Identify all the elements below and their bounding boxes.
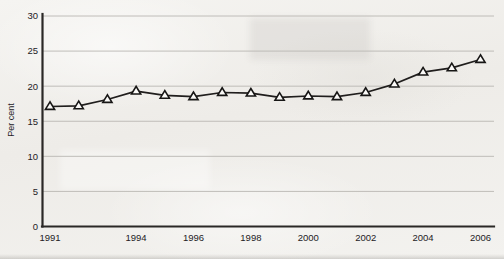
data-point-marker	[45, 102, 54, 110]
x-axis-tick-label: 1991	[39, 232, 60, 243]
data-point-marker	[361, 88, 370, 96]
series-line-percent	[50, 60, 481, 107]
data-point-marker	[246, 88, 255, 96]
data-point-marker	[275, 93, 284, 101]
x-axis-tick-label: 1998	[240, 232, 261, 243]
x-axis-tick-label: 2000	[298, 232, 319, 243]
y-axis-tick-label: 0	[33, 221, 38, 232]
data-point-marker	[332, 92, 341, 100]
x-axis-tick-labels: 19911994199619982000200220042006	[39, 232, 491, 243]
x-axis-tick-label: 2006	[470, 232, 491, 243]
y-axis-tick-labels: 051015202530	[27, 10, 38, 232]
data-point-marker	[132, 86, 141, 94]
gridlines-group	[43, 16, 494, 191]
line-chart-plot: 051015202530 199119941996199820002002200…	[0, 0, 504, 259]
y-axis-tick-label: 25	[27, 45, 38, 56]
data-point-marker	[189, 92, 198, 100]
x-axis-tick-label: 2004	[413, 232, 434, 243]
y-axis-tick-label: 30	[27, 10, 38, 21]
series-markers-group	[45, 55, 485, 110]
x-axis-tick-label: 2002	[355, 232, 376, 243]
data-point-marker	[74, 101, 83, 109]
data-point-marker	[218, 88, 227, 96]
data-point-marker	[419, 67, 428, 75]
data-point-marker	[304, 91, 313, 99]
y-axis-title: Per cent	[6, 103, 16, 137]
y-axis-tick-label: 15	[27, 116, 38, 127]
y-axis-tick-label: 5	[33, 186, 38, 197]
data-point-marker	[103, 95, 112, 103]
y-axis-tick-label: 10	[27, 151, 38, 162]
data-point-marker	[447, 63, 456, 71]
data-point-marker	[160, 91, 169, 99]
y-axis-tick-label: 20	[27, 81, 38, 92]
x-axis-tick-label: 1996	[183, 232, 204, 243]
data-point-marker	[476, 55, 485, 63]
x-axis-tick-label: 1994	[126, 232, 147, 243]
data-point-marker	[390, 79, 399, 87]
chart-figure: 051015202530 199119941996199820002002200…	[0, 0, 504, 259]
